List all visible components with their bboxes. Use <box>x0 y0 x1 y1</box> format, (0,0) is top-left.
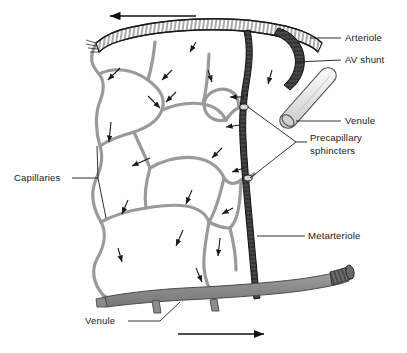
venule-tube <box>280 68 337 129</box>
label-capillaries: Capillaries <box>14 172 60 183</box>
label-arteriole: Arteriole <box>345 32 382 43</box>
label-venule-bottom: Venule <box>85 315 115 326</box>
label-venule-right: Venule <box>345 115 375 126</box>
sphincter-upper <box>240 104 248 110</box>
venule-bottom-vessel <box>96 264 355 313</box>
label-metarteriole: Metarteriole <box>308 230 360 241</box>
label-precapillary-sphincters-line1: Precapillary <box>310 132 362 143</box>
metarteriole-vessel <box>240 30 260 299</box>
label-av-shunt: AV shunt <box>345 54 385 65</box>
microcirculation-diagram: Arteriole AV shunt Venule Capillaries Me… <box>0 0 407 353</box>
capillary-network <box>92 42 254 300</box>
label-precapillary-sphincters-line2: sphincters <box>310 145 355 156</box>
sphincter-lower <box>244 175 252 181</box>
